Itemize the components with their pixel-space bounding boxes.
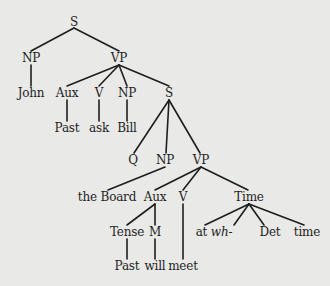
tree-edge <box>169 100 200 153</box>
tree-edge <box>127 204 155 225</box>
tree-node-meet: meet <box>168 260 198 272</box>
node-label: VP <box>193 153 209 167</box>
node-label-italic: wh- <box>211 225 232 239</box>
node-label: VP <box>111 51 127 65</box>
tree-node-time2: time <box>294 226 320 238</box>
tree-node-m: M <box>149 226 161 238</box>
tree-node-det: Det <box>260 226 281 238</box>
syntax-tree-diagram: SNPVPJohnAuxVNPSPastaskBillQNPVPthe Boar… <box>0 0 330 286</box>
tree-node-np3: NP <box>156 154 174 166</box>
tree-edge <box>99 65 119 86</box>
tree-edge <box>201 167 248 190</box>
tree-node-atwh: at wh- <box>196 226 233 238</box>
node-label: NP <box>118 86 136 100</box>
tree-edge <box>67 65 119 86</box>
node-label: V <box>179 190 187 204</box>
node-label: S <box>165 86 173 100</box>
tree-node-past1: Past <box>55 122 80 134</box>
node-label: V <box>95 86 103 100</box>
node-label: M <box>149 225 161 239</box>
node-label: ask <box>89 121 109 135</box>
tree-node-vp2: VP <box>193 154 209 166</box>
node-label: Past <box>55 121 80 135</box>
node-label: John <box>18 86 45 100</box>
tree-node-aux1: Aux <box>56 87 79 99</box>
tree-node-q: Q <box>128 154 138 166</box>
node-label: Time <box>234 190 264 204</box>
tree-node-s1: S <box>70 16 78 28</box>
tree-node-ask: ask <box>89 122 109 134</box>
tree-edge <box>155 167 201 190</box>
tree-node-past2: Past <box>115 260 140 272</box>
node-label: Bill <box>117 121 137 135</box>
tree-node-aux2: Aux <box>144 191 167 203</box>
node-label: will <box>145 259 166 273</box>
node-label: S <box>70 15 78 29</box>
tree-edge <box>31 28 74 51</box>
node-label: the Board <box>78 190 136 204</box>
node-label: meet <box>168 259 198 273</box>
tree-edge <box>74 28 119 51</box>
tree-node-will: will <box>145 260 166 272</box>
tree-node-time1: Time <box>234 191 264 203</box>
node-label: Q <box>128 153 138 167</box>
tree-node-bill: Bill <box>117 122 137 134</box>
tree-node-np1: NP <box>22 52 40 64</box>
node-label: Aux <box>56 86 79 100</box>
tree-node-tense: Tense <box>110 226 144 238</box>
node-label: Det <box>260 225 281 239</box>
node-label: NP <box>22 51 40 65</box>
node-label: time <box>294 225 320 239</box>
tree-node-v1: V <box>95 87 103 99</box>
tree-edge <box>166 100 169 153</box>
tree-node-v2: V <box>179 191 187 203</box>
node-label: Aux <box>144 190 167 204</box>
tree-edge <box>108 167 165 190</box>
tree-node-vp1: VP <box>111 52 127 64</box>
tree-node-s2: S <box>165 87 173 99</box>
tree-edge <box>134 100 169 153</box>
node-label: Past <box>115 259 140 273</box>
tree-node-john: John <box>18 87 45 99</box>
tree-edge <box>183 167 201 190</box>
node-label: at <box>196 225 208 239</box>
tree-edges <box>0 0 330 286</box>
node-label: Tense <box>110 225 144 239</box>
tree-node-board: the Board <box>78 191 136 203</box>
tree-node-np2: NP <box>118 87 136 99</box>
node-label: NP <box>156 153 174 167</box>
